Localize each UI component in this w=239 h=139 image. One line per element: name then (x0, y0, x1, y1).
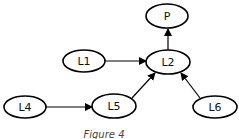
node-label: L2 (161, 56, 174, 69)
node-l6: L6 (193, 96, 237, 118)
edge-l6-to-l2 (181, 73, 200, 98)
node-label: L6 (208, 101, 221, 114)
node-l1: L1 (63, 50, 105, 72)
node-label: P (164, 10, 171, 23)
diagram-canvas: P L1 L2 L4 L5 L6 Figure 4 (0, 0, 239, 139)
node-label: L5 (107, 100, 120, 113)
edge-l5-to-l2 (132, 73, 155, 98)
node-p: P (146, 4, 188, 28)
node-l5: L5 (92, 94, 136, 118)
node-label: L1 (77, 55, 90, 68)
node-l4: L4 (4, 96, 46, 118)
node-label: L4 (18, 101, 31, 114)
figure-caption: Figure 4 (83, 129, 124, 139)
node-l2: L2 (146, 50, 190, 74)
